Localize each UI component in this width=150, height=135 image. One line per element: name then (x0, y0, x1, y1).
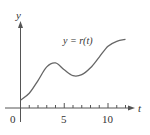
curve-r-t (21, 39, 126, 100)
x-axis-arrow-icon (128, 106, 135, 111)
curve-label: y = r(t) (63, 36, 93, 46)
chart: y t 0 5 10 y = r(t) (0, 0, 150, 135)
x-axis-label: t (138, 103, 141, 114)
y-axis-label: y (16, 10, 21, 21)
y-axis-arrow-icon (18, 21, 23, 28)
x-ticks (29, 103, 125, 108)
plot-area (0, 0, 150, 135)
tick-label-5: 5 (61, 114, 67, 125)
tick-label-10: 10 (102, 114, 113, 125)
origin-label: 0 (10, 114, 16, 125)
